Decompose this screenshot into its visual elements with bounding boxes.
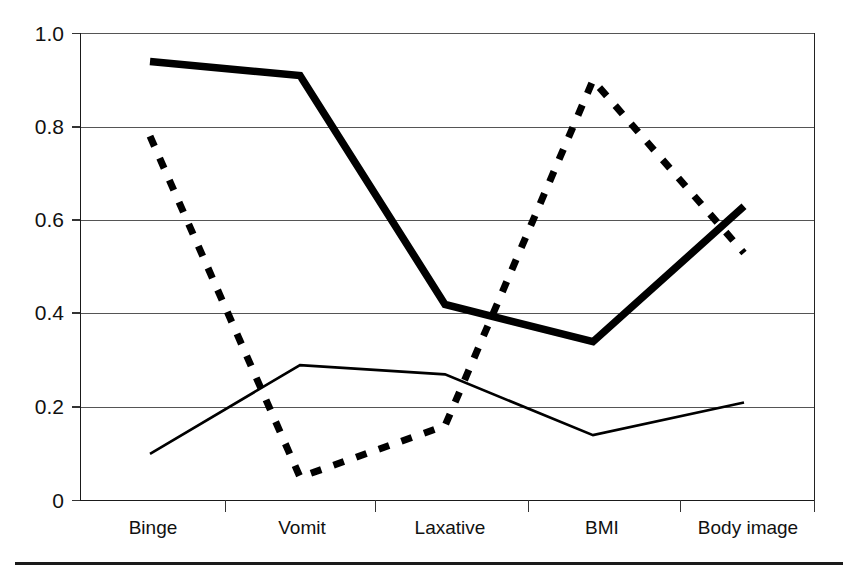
x-label-body-image: Body image — [698, 517, 798, 538]
figure-container: 1.0 0.8 0.6 0.4 0.2 0 Binge Vomit Laxati… — [0, 0, 843, 580]
x-label-binge: Binge — [129, 517, 178, 538]
y-tick-labels: 1.0 0.8 0.6 0.4 0.2 0 — [35, 22, 65, 512]
x-tick-marks — [226, 500, 815, 512]
y-label-0.4: 0.4 — [35, 301, 65, 324]
x-label-vomit: Vomit — [278, 517, 326, 538]
y-label-0.8: 0.8 — [35, 115, 64, 138]
x-label-laxative: Laxative — [415, 517, 486, 538]
y-label-0: 0 — [52, 489, 64, 512]
x-tick-labels: Binge Vomit Laxative BMI Body image — [129, 517, 798, 538]
x-label-bmi: BMI — [585, 517, 619, 538]
y-tick-marks — [72, 34, 80, 501]
y-label-0.6: 0.6 — [35, 208, 64, 231]
y-label-1.0: 1.0 — [35, 22, 64, 45]
line-chart: 1.0 0.8 0.6 0.4 0.2 0 Binge Vomit Laxati… — [0, 0, 843, 580]
y-label-0.2: 0.2 — [35, 395, 64, 418]
